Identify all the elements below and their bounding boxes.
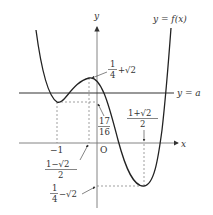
x-tick-right-crit-label: 1+√2 2 — [127, 108, 158, 141]
x-axis-label: x — [181, 139, 186, 149]
svg-text:2: 2 — [58, 170, 63, 180]
svg-text:2: 2 — [140, 119, 145, 129]
global-min-label: 1 4 −√2 — [50, 183, 95, 204]
svg-text:1+√2: 1+√2 — [128, 108, 151, 118]
svg-text:−√2: −√2 — [59, 189, 77, 199]
svg-text:1: 1 — [52, 183, 57, 193]
curve-label: y = f(x) — [152, 14, 187, 24]
svg-text:16: 16 — [99, 127, 110, 137]
svg-text:4: 4 — [52, 194, 57, 204]
svg-text:17: 17 — [99, 116, 110, 126]
svg-text:4: 4 — [110, 70, 115, 80]
function-graph: y x y = f(x) y = a O −1 1 4 +√2 17 16 1−… — [0, 0, 213, 215]
y-axis-label: y — [93, 11, 100, 21]
svg-text:1: 1 — [110, 59, 115, 69]
svg-text:1−√2: 1−√2 — [46, 159, 69, 169]
origin-label: O — [100, 145, 107, 155]
line-label: y = a — [176, 88, 201, 98]
svg-text:+√2: +√2 — [118, 65, 136, 75]
local-max-label: 1 4 +√2 — [92, 59, 136, 80]
local-min-left-label: 17 16 — [98, 104, 110, 137]
x-tick-neg1: −1 — [50, 145, 63, 155]
